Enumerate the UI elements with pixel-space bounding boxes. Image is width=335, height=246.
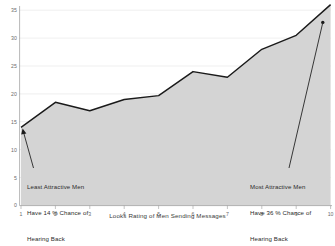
annotation-left-line-1: Least Attractive Men [27,183,88,192]
y-tick-label-0: 0 [1,202,17,208]
annotation-left-line-3: Hearing Back [27,235,88,244]
y-tick-label-35: 35 [1,7,17,13]
annotation-left-line-2: Have 14 % Chance of [27,209,88,218]
y-tick-label-20: 20 [1,91,17,97]
annotation-least-attractive: Least Attractive Men Have 14 % Chance of… [27,166,88,246]
y-tick-label-25: 25 [1,63,17,69]
y-tick-label-5: 5 [1,175,17,181]
annotation-right-line-2: Have 36 % Chance of [250,209,311,218]
annotation-right-line-1: Most Attractive Men [250,183,311,192]
y-tick-label-15: 15 [1,119,17,125]
y-tick-label-30: 30 [1,35,17,41]
y-tick-label-10: 10 [1,147,17,153]
annotation-right-line-3: Hearing Back [250,235,311,244]
annotation-most-attractive: Most Attractive Men Have 36 % Chance of … [250,166,311,246]
